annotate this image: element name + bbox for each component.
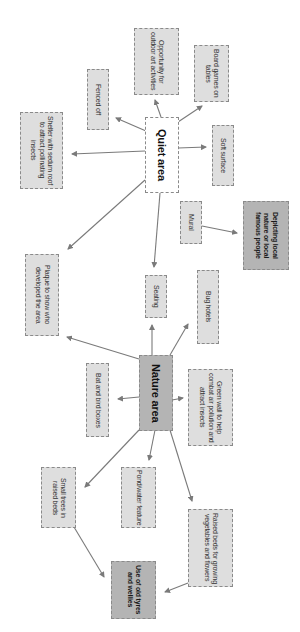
node-label: Bug hotels [204, 291, 213, 322]
node-label: Fenced off [94, 84, 103, 115]
node-label: Seating [152, 285, 161, 307]
node-nature-area: Nature area [139, 355, 173, 431]
node-shelter: Shelter with sedum roof to attract polli… [20, 112, 63, 189]
node-label: Board games on tables [203, 46, 220, 101]
node-label: Depicting local nature or local famous p… [253, 202, 279, 269]
node-label: Use of old tyres and wellies [125, 562, 142, 618]
node-label: Opportunity for outdoor art activities [148, 29, 165, 94]
node-pond: Pond/water feature [121, 467, 156, 528]
node-label: Green wall to help combat air pollution … [198, 370, 224, 445]
node-label: Nature area [150, 364, 162, 422]
node-board-games: Board games on tables [194, 45, 229, 102]
node-soft-surface: Soft surface [212, 125, 234, 186]
node-green-wall: Green wall to help combat air pollution … [188, 369, 233, 446]
node-bug-hotels: Bug hotels [197, 270, 219, 344]
node-label: Raised beds for growing vegetables and f… [202, 510, 219, 586]
node-label: Bat and bird boxes [93, 373, 102, 428]
node-label: Small trees in raised beds [50, 468, 67, 527]
node-label: Soft surface [219, 138, 228, 173]
node-outdoor-art: Opportunity for outdoor art activities [134, 28, 179, 95]
node-label: Quiet area [156, 129, 168, 181]
node-depicting: Depicting local nature or local famous p… [243, 201, 289, 270]
node-label: Shelter with sedum roof to attract polli… [29, 113, 55, 188]
node-label: Mural [187, 214, 196, 231]
node-fenced-off: Fenced off [87, 69, 109, 130]
node-seating: Seating [145, 275, 167, 318]
node-small-trees: Small trees in raised beds [41, 467, 76, 528]
node-quiet-area: Quiet area [145, 117, 179, 193]
node-raised-beds: Raised beds for growing vegetables and f… [188, 509, 233, 587]
node-bat-bird-boxes: Bat and bird boxes [86, 363, 109, 437]
node-label: Pond/water feature [134, 470, 143, 526]
node-label: Plaque to show who developed the area [34, 255, 51, 335]
node-old-tyres: Use of old tyres and wellies [111, 561, 156, 619]
node-plaque: Plaque to show who developed the area [25, 254, 59, 336]
node-mural: Mural [180, 201, 202, 244]
mind-map-canvas: Quiet area Fenced off Opportunity for ou… [0, 0, 300, 632]
